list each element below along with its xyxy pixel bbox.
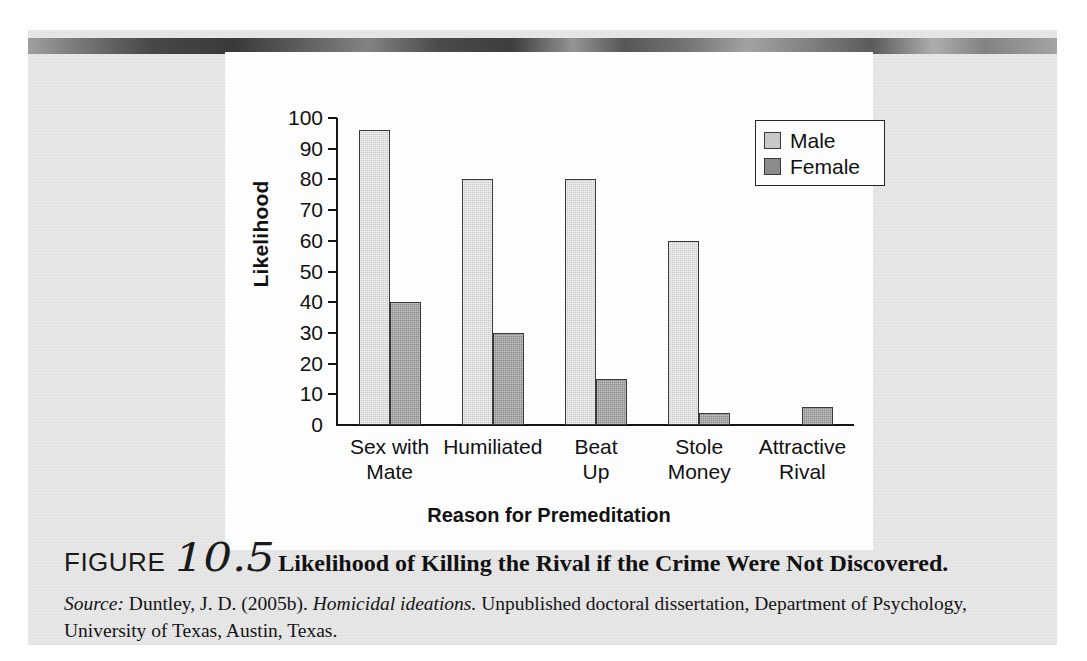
y-tick-label: 80 — [279, 168, 323, 189]
y-tick-label: 60 — [279, 230, 323, 251]
legend-label-male: Male — [790, 130, 836, 151]
y-tick-mark — [328, 393, 337, 395]
bar-male-2 — [565, 179, 596, 425]
figure-source-note: Source: Duntley, J. D. (2005b). Homicida… — [64, 590, 1020, 644]
y-tick-mark — [328, 240, 337, 242]
bar-female-2 — [596, 379, 627, 425]
bar-female-0 — [390, 302, 421, 425]
figure-caption: FIGURE 10.5 Likelihood of Killing the Ri… — [64, 542, 1024, 644]
legend-label-female: Female — [790, 156, 860, 177]
figure-chart-card: Likelihood 0102030405060708090100 Sex wi… — [225, 52, 873, 550]
x-category-label: AttractiveRival — [739, 434, 866, 484]
y-tick-label: 0 — [279, 414, 323, 435]
source-author: Duntley, J. D. (2005b). — [124, 593, 313, 614]
source-prefix: Source: — [64, 593, 124, 614]
y-tick-mark — [328, 178, 337, 180]
bar-female-4 — [802, 407, 833, 425]
y-tick-label: 50 — [279, 261, 323, 282]
bar-male-1 — [462, 179, 493, 425]
y-tick-label: 100 — [279, 107, 323, 128]
legend-swatch-male-icon — [764, 132, 781, 149]
y-tick-label: 30 — [279, 322, 323, 343]
y-tick-mark — [328, 209, 337, 211]
figure-label: FIGURE — [64, 547, 165, 578]
y-tick-label: 70 — [279, 199, 323, 220]
y-tick-mark — [328, 332, 337, 334]
y-tick-mark — [328, 301, 337, 303]
bar-male-0 — [359, 130, 390, 425]
legend-item-female: Female — [764, 153, 876, 179]
y-tick-label: 90 — [279, 138, 323, 159]
figure-title-line: FIGURE 10.5 Likelihood of Killing the Ri… — [64, 542, 1024, 578]
legend-swatch-female-icon — [764, 158, 781, 175]
chart-legend: Male Female — [755, 120, 885, 186]
x-axis-title: Reason for Premeditation — [225, 504, 873, 527]
bar-chart: Likelihood 0102030405060708090100 Sex wi… — [225, 52, 873, 550]
y-tick-mark — [328, 117, 337, 119]
bar-female-1 — [493, 333, 524, 425]
y-tick-label: 20 — [279, 353, 323, 374]
legend-item-male: Male — [764, 127, 876, 153]
bar-female-3 — [699, 413, 730, 425]
figure-number: 10.5 — [175, 542, 275, 572]
figure-title-text: Likelihood of Killing the Rival if the C… — [278, 550, 948, 577]
y-axis-tick-labels: 0102030405060708090100 — [265, 52, 323, 452]
scanned-page: Likelihood 0102030405060708090100 Sex wi… — [28, 30, 1057, 645]
y-tick-mark — [328, 363, 337, 365]
bar-male-3 — [668, 241, 699, 425]
y-tick-mark — [328, 271, 337, 273]
y-tick-label: 40 — [279, 291, 323, 312]
y-tick-label: 10 — [279, 383, 323, 404]
source-work-title: Homicidal ideations. — [313, 593, 477, 614]
y-tick-mark — [328, 148, 337, 150]
